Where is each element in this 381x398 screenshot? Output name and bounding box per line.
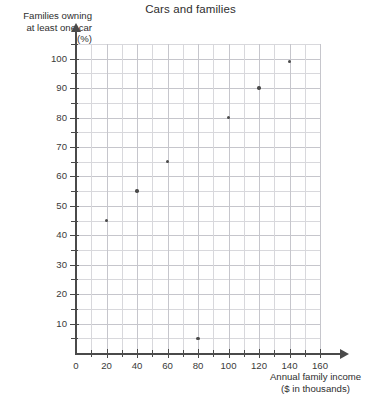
y-axis-tick-minor [71,221,78,222]
x-axis-tick-minor [152,350,153,357]
gridline-vertical [91,44,92,353]
y-axis-tick-major [70,59,79,60]
x-axis-tick-minor [213,350,214,357]
x-axis-tick-minor [122,350,123,357]
gridline-vertical [320,44,321,353]
x-axis-tick-major [229,349,230,358]
gridline-vertical [107,44,108,353]
gridline-vertical [213,44,214,353]
x-axis-label-line-1: Annual family income [250,371,381,383]
x-axis-label-line-2: ($ in thousands) [250,383,381,395]
y-axis-tick-major [70,294,79,295]
data-point [257,86,260,89]
x-axis-tick-minor [183,350,184,357]
x-axis-tick-minor [305,350,306,357]
gridline-vertical [198,44,199,353]
x-axis-tick-major [107,349,108,358]
data-point [135,189,138,192]
y-axis-tick-minor [71,132,78,133]
y-axis-tick-label: 20 [27,288,67,299]
y-axis-tick-label: 50 [27,200,67,211]
y-axis-tick-major [70,147,79,148]
y-axis-tick-major [70,235,79,236]
gridline-vertical [305,44,306,353]
y-axis-tick-major [70,206,79,207]
y-axis-tick-minor [71,338,78,339]
x-axis-line [75,353,342,355]
gridline-vertical [137,44,138,353]
x-axis-tick-minor [244,350,245,357]
y-axis-tick-major [70,176,79,177]
y-axis-tick-label: 80 [27,112,67,123]
y-axis-tick-label: 30 [27,259,67,270]
gridline-vertical [259,44,260,353]
y-axis-tick-label: 70 [27,141,67,152]
y-axis-tick-label: 60 [27,170,67,181]
y-axis-tick-minor [71,309,78,310]
gridline-vertical [168,44,169,353]
y-axis-tick-minor [71,44,78,45]
x-axis-label: Annual family income ($ in thousands) [250,371,381,394]
x-axis-tick-major [290,349,291,358]
y-axis-tick-major [70,118,79,119]
y-axis-tick-minor [71,103,78,104]
x-axis-tick-major [320,349,321,358]
y-axis-tick-minor [71,162,78,163]
gridline-vertical [229,44,230,353]
y-axis-tick-label: 40 [27,229,67,240]
x-axis-tick-label: 160 [300,360,340,371]
x-axis-arrow-icon [340,349,349,359]
plot-area [76,44,320,353]
y-axis-tick-label: 10 [27,318,67,329]
x-axis-tick-major [168,349,169,358]
data-point [196,337,199,340]
y-axis-line [75,30,77,355]
gridline-vertical [244,44,245,353]
gridline-vertical [152,44,153,353]
y-axis-tick-label: 100 [27,53,67,64]
gridline-vertical [274,44,275,353]
y-axis-arrow-icon [71,23,81,32]
scatter-chart: Cars and families Families owning at lea… [0,0,381,398]
y-axis-label-line-3: (%) [0,33,92,45]
y-axis-label-line-1: Families owning [0,10,92,22]
y-axis-tick-label: 90 [27,82,67,93]
y-axis-tick-major [70,88,79,89]
y-axis-tick-minor [71,250,78,251]
y-axis-tick-major [70,324,79,325]
y-axis-tick-minor [71,279,78,280]
x-axis-tick-minor [91,350,92,357]
y-axis-tick-minor [71,191,78,192]
gridline-vertical [183,44,184,353]
gridline-vertical [122,44,123,353]
y-axis-tick-minor [71,73,78,74]
x-axis-tick-major [259,349,260,358]
x-axis-tick-major [137,349,138,358]
y-axis-tick-major [70,265,79,266]
x-axis-tick-major [198,349,199,358]
x-axis-tick-minor [274,350,275,357]
gridline-vertical [290,44,291,353]
